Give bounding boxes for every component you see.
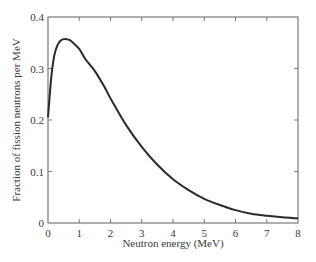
x-tick-label: 2 [108, 227, 114, 239]
y-tick-label: 0.2 [30, 114, 44, 126]
tick-labels: 01234567800.10.20.30.4 [30, 11, 301, 239]
y-tick-label: 0.1 [30, 166, 44, 178]
chart: 01234567800.10.20.30.4 Neutron energy (M… [0, 0, 316, 262]
x-tick-label: 0 [45, 227, 51, 239]
plot-frame [48, 17, 298, 223]
y-tick-label: 0 [39, 217, 45, 229]
x-tick-label: 1 [77, 227, 83, 239]
y-tick-label: 0.3 [30, 63, 44, 75]
x-tick-label: 6 [233, 227, 239, 239]
plot-border [48, 17, 298, 223]
x-tick-label: 8 [295, 227, 301, 239]
x-tick-label: 7 [264, 227, 270, 239]
y-tick-label: 0.4 [30, 11, 44, 23]
y-axis-label: Fraction of fission neutrons per MeV [10, 38, 22, 201]
axis-ticks [48, 17, 298, 223]
spectrum-curve [48, 39, 298, 218]
x-axis-label: Neutron energy (MeV) [122, 237, 224, 250]
